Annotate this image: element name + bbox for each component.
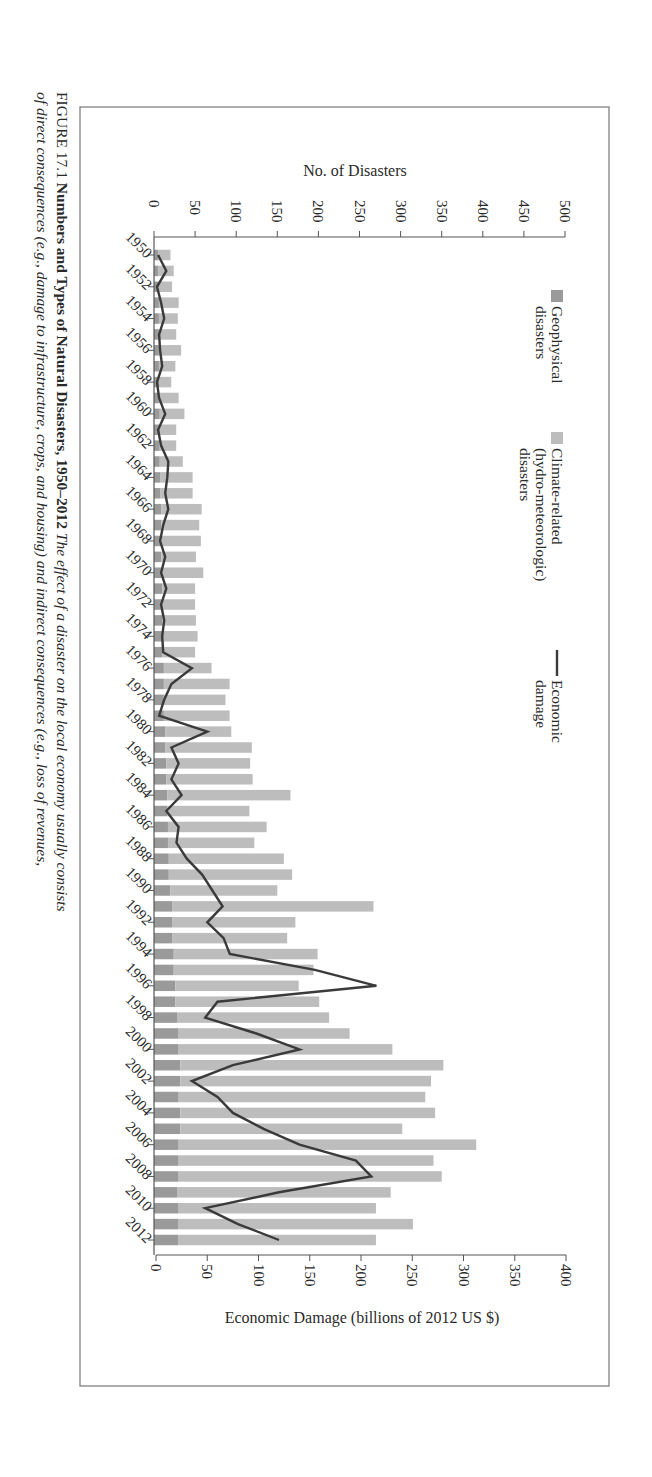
geophysical-bar: [154, 440, 160, 451]
geophysical-bar: [154, 933, 172, 944]
legend-text: disasters: [517, 448, 534, 501]
bar-1991: [154, 901, 373, 912]
legend-geophysical: Geophysicaldisasters: [533, 290, 566, 383]
geophysical-bar: [154, 552, 161, 563]
climate-bar: [162, 647, 195, 658]
geophysical-bar: [154, 1187, 177, 1198]
year-tick-label: 1988: [123, 832, 156, 865]
geophysical-bar: [154, 996, 175, 1007]
damage-tick-label: 350: [507, 1264, 523, 1287]
climate-bar: [167, 790, 290, 801]
geophysical-bar: [154, 615, 162, 626]
bar-1955: [154, 329, 176, 340]
legend-text: Economic: [549, 680, 566, 743]
year-tick-label: 1998: [123, 991, 156, 1024]
geophysical-bar: [154, 456, 160, 467]
geophysical-bar: [154, 838, 168, 849]
year-tick-label: 1956: [123, 324, 156, 357]
geophysical-bar: [154, 1235, 179, 1246]
geophysical-bar: [154, 965, 174, 976]
year-tick-label: 1978: [123, 673, 156, 706]
year-tick-label: 2004: [123, 1086, 156, 1119]
climate-bar: [164, 695, 226, 706]
geophysical-bar: [154, 917, 172, 928]
climate-bar: [162, 567, 203, 578]
year-tick-label: 1968: [123, 515, 156, 548]
climate-bar: [162, 599, 195, 610]
bar-1967: [154, 520, 199, 531]
damage-tick-label: 400: [558, 1264, 574, 1287]
climate-bar: [179, 1171, 442, 1182]
bar-1986: [154, 822, 267, 833]
geophysical-bar: [154, 631, 162, 642]
damage-tick-label: 150: [302, 1264, 318, 1287]
year-tick-label: 2008: [123, 1150, 156, 1183]
climate-bar: [179, 1155, 434, 1166]
year-tick-label: 1954: [123, 292, 156, 325]
year-tick-label: 1964: [123, 451, 156, 484]
geophysical-bar: [154, 949, 174, 960]
climate-bar: [162, 631, 197, 642]
geophysical-bar: [154, 1044, 179, 1055]
bar-2004: [154, 1108, 435, 1119]
bar-1973: [154, 615, 196, 626]
climate-bar: [159, 377, 171, 388]
geophysical-bar: [154, 504, 161, 515]
year-tick-label: 1984: [123, 769, 156, 802]
legend-text: damage: [533, 680, 550, 728]
bar-1965: [154, 488, 193, 499]
climate-bar: [160, 456, 183, 467]
legend-climate: Climate-related(hydro-meteorologic)disas…: [517, 432, 566, 581]
climate-bar: [161, 552, 196, 563]
year-tick-label: 2000: [123, 1023, 156, 1056]
geophysical-bar: [154, 520, 161, 531]
geophysical-bar: [154, 345, 159, 356]
year-tick-label: 1986: [123, 801, 156, 834]
year-tick-label: 1958: [123, 356, 156, 389]
bar-1956: [154, 345, 181, 356]
damage-tick-label: 100: [251, 1264, 267, 1287]
disaster-tick-label: 0: [146, 200, 162, 208]
climate-bar: [180, 1076, 431, 1087]
climate-bar: [159, 345, 181, 356]
geophysical-bar: [154, 1092, 179, 1103]
bar-1988: [154, 853, 284, 864]
bar-1979: [154, 710, 230, 721]
bar-1989: [154, 869, 292, 880]
bar-1954: [154, 313, 178, 324]
climate-bar: [180, 1060, 443, 1071]
year-tick-label: 1960: [123, 387, 156, 420]
bar-1960: [154, 409, 184, 420]
legend-economic: Economicdamage: [533, 650, 566, 743]
bar-1984: [154, 790, 290, 801]
climate-bar: [164, 679, 230, 690]
climate-bar: [159, 393, 179, 404]
disaster-tick-label: 100: [228, 200, 244, 223]
damage-tick-label: 50: [199, 1264, 215, 1279]
geophysical-bar: [154, 1171, 179, 1182]
climate-bar: [161, 536, 200, 547]
year-tick-label: 1952: [123, 260, 156, 293]
legend-text: Geophysical: [549, 306, 566, 383]
geophysical-bar: [154, 472, 161, 483]
damage-tick-label: 250: [404, 1264, 420, 1287]
bar-1999: [154, 1028, 350, 1039]
year-tick-label: 1990: [123, 864, 156, 897]
climate-bar: [172, 917, 295, 928]
geophysical-bar: [154, 1076, 180, 1087]
bar-1992: [154, 917, 295, 928]
bar-1957: [154, 361, 175, 372]
bar-1966: [154, 504, 202, 515]
year-tick-label: 1966: [123, 483, 156, 516]
bar-1982: [154, 758, 250, 769]
year-tick-label: 1970: [123, 546, 156, 579]
bar-2002: [154, 1076, 431, 1087]
damage-tick-label: 0: [148, 1264, 164, 1272]
bar-series: [154, 250, 476, 1246]
geophysical-bar: [154, 647, 162, 658]
bar-1983: [154, 774, 253, 785]
caption-line-2: of direct consequences (e.g., damage to …: [33, 92, 51, 866]
geophysical-bar: [154, 901, 172, 912]
disaster-tick-label: 350: [434, 200, 450, 223]
bar-2005: [154, 1124, 402, 1135]
